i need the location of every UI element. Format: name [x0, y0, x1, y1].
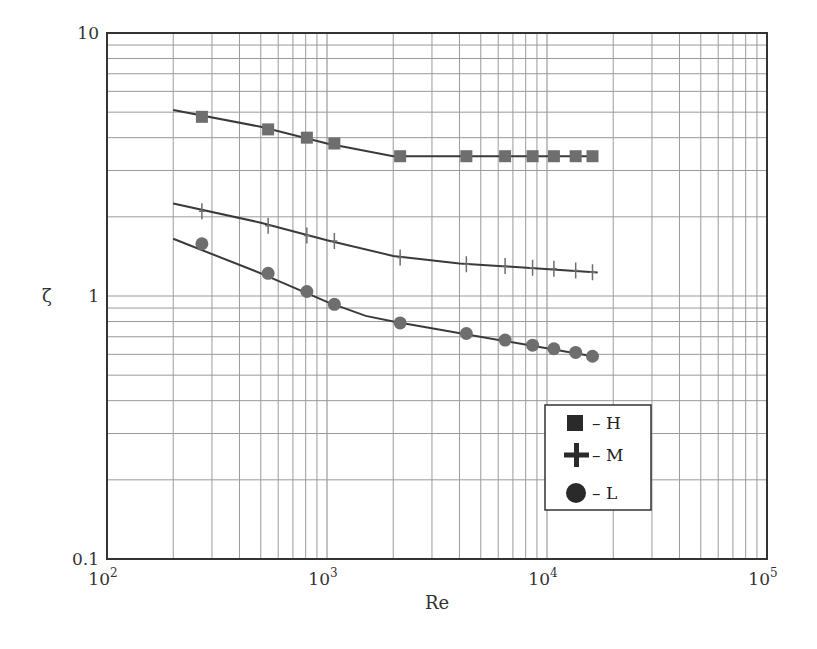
x-tick-label: 104	[528, 566, 558, 589]
legend-item-l: – L	[566, 483, 617, 503]
square-marker-icon	[460, 150, 472, 162]
plus-marker-icon	[265, 218, 271, 234]
circle-marker-icon	[586, 350, 599, 363]
circle-marker-icon	[569, 346, 582, 359]
square-marker-icon	[301, 132, 313, 144]
plus-marker-icon	[573, 263, 579, 279]
fit-line-h	[173, 110, 592, 156]
circle-marker-icon	[460, 327, 473, 340]
square-marker-icon	[262, 123, 274, 135]
plus-marker-icon	[397, 250, 403, 266]
circle-marker-icon	[566, 483, 586, 503]
fit-line-m	[173, 203, 598, 272]
circle-marker-icon	[262, 267, 275, 280]
circle-marker-icon	[300, 285, 313, 298]
y-tick-label: 10	[77, 23, 99, 43]
legend: – H – M – L	[545, 405, 651, 510]
square-marker-icon	[394, 150, 406, 162]
legend-label-m: – M	[592, 445, 623, 465]
square-marker-icon	[527, 150, 539, 162]
square-marker-icon	[499, 150, 511, 162]
x-tick-label: 102	[88, 566, 117, 589]
x-tick-label: 105	[748, 566, 777, 589]
legend-label-l: – L	[592, 483, 617, 503]
circle-marker-icon	[328, 298, 341, 311]
plus-marker-icon	[463, 256, 469, 272]
plus-marker-icon	[331, 233, 337, 249]
square-marker-icon	[567, 415, 583, 431]
legend-label-h: – H	[592, 413, 621, 433]
chart: 1010.1 102103104105 Re ζ – H – M – L	[0, 0, 817, 649]
plus-marker-icon	[551, 261, 557, 277]
circle-marker-icon	[499, 334, 512, 347]
y-tick-labels: 1010.1	[72, 23, 99, 569]
fit-line-l	[173, 239, 592, 356]
circle-marker-icon	[394, 316, 407, 329]
square-marker-icon	[587, 150, 599, 162]
circle-marker-icon	[195, 237, 208, 250]
plus-marker-icon	[590, 264, 596, 280]
plus-marker-icon	[502, 258, 508, 274]
y-tick-label: 0.1	[72, 549, 99, 569]
x-axis-label: Re	[425, 592, 449, 613]
circle-marker-icon	[547, 342, 560, 355]
x-tick-labels: 102103104105	[88, 566, 777, 589]
square-marker-icon	[570, 150, 582, 162]
circle-marker-icon	[526, 339, 539, 352]
fit-lines	[173, 110, 598, 356]
plus-marker-icon	[304, 227, 310, 243]
plus-marker-icon	[530, 260, 536, 276]
y-axis-label: ζ	[42, 285, 52, 306]
legend-item-h: – H	[567, 413, 621, 433]
y-tick-label: 1	[88, 286, 99, 306]
data-markers	[195, 111, 599, 363]
square-marker-icon	[548, 150, 560, 162]
square-marker-icon	[196, 111, 208, 123]
square-marker-icon	[328, 138, 340, 150]
x-tick-label: 103	[308, 566, 337, 589]
